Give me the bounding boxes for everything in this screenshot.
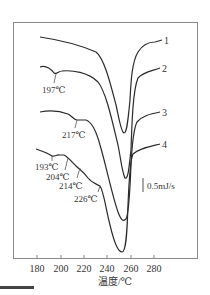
x-tick-280: 280 xyxy=(147,263,162,274)
x-tick-240: 240 xyxy=(100,263,115,274)
annotation-leader-217 xyxy=(75,120,77,128)
curve-4-label: 4 xyxy=(162,139,167,150)
x-tick-220: 220 xyxy=(77,263,92,274)
x-tick-200: 200 xyxy=(54,263,69,274)
annotation-leader-214 xyxy=(77,168,80,178)
scale-bar-label: 0.5mJ/s xyxy=(147,181,175,191)
annotation-193: 193℃ xyxy=(35,162,59,172)
annotation-leader-204 xyxy=(65,158,68,170)
curve-1-label: 1 xyxy=(164,35,169,46)
annotation-226: 226℃ xyxy=(74,194,98,204)
x-tick-180: 180 xyxy=(30,263,45,274)
annotation-214: 214℃ xyxy=(59,181,83,191)
annotation-197: 197℃ xyxy=(42,85,66,95)
annotation-217: 217℃ xyxy=(62,130,86,140)
annotation-leader-226 xyxy=(98,186,100,192)
curve-2-label: 2 xyxy=(162,63,167,74)
x-axis-label: 温度/℃ xyxy=(98,275,132,287)
dsc-chart: 180 200 220 240 260 280 温度/℃ 1 2 197℃ 3 … xyxy=(0,0,210,295)
annotation-leader-197 xyxy=(54,74,56,83)
x-axis-ticks xyxy=(37,255,154,258)
curve-4 xyxy=(36,144,160,252)
plot-frame xyxy=(14,23,198,259)
x-tick-260: 260 xyxy=(124,263,139,274)
curve-3-label: 3 xyxy=(162,107,167,118)
x-axis-tick-labels: 180 200 220 240 260 280 xyxy=(30,263,162,274)
page-edge-bar xyxy=(0,286,34,289)
